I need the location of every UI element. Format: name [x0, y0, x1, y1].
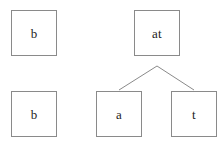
node-label: t: [192, 108, 196, 121]
node-label: a: [116, 108, 122, 121]
edge-at-to-t: [157, 66, 194, 90]
node-stack-bottom[interactable]: b: [11, 91, 57, 137]
node-stack-top[interactable]: b: [11, 10, 57, 56]
node-label: b: [31, 27, 38, 40]
edge-at-to-a: [119, 66, 157, 90]
node-label: at: [152, 27, 162, 40]
node-child-a[interactable]: a: [96, 91, 142, 137]
diagram-canvas: b b at a t: [0, 0, 221, 142]
node-child-t[interactable]: t: [171, 91, 217, 137]
node-label: b: [31, 108, 38, 121]
node-parent-at[interactable]: at: [134, 10, 180, 56]
